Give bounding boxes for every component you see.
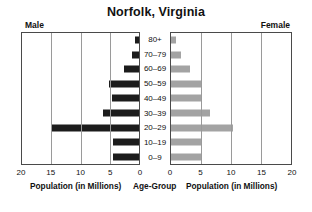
age-group-label: 30–39 — [140, 106, 170, 121]
male-bar-30-39 — [103, 110, 139, 117]
female-bar-80+ — [171, 37, 176, 44]
age-group-axis-title: Age-Group — [133, 181, 176, 191]
female-axis-title: Population (in Millions) — [186, 181, 277, 191]
axis-tick-label: 10 — [227, 168, 236, 177]
female-bar-70-79 — [171, 51, 181, 58]
male-bar-50-59 — [109, 80, 139, 87]
axis-tick-label: 15 — [257, 168, 266, 177]
female-bar-60-69 — [171, 66, 190, 73]
axis-tick-label: 0 — [138, 168, 142, 177]
axis-tick-label: 15 — [46, 168, 55, 177]
axis-tick-label: 20 — [288, 168, 297, 177]
male-plot-panel — [21, 32, 140, 165]
age-group-label: 60–69 — [140, 62, 170, 77]
gridline — [231, 33, 232, 164]
age-group-label: 40–49 — [140, 91, 170, 106]
male-bar-10-19 — [113, 139, 139, 146]
female-bar-0-9 — [171, 153, 202, 160]
axis-tick-label: 10 — [76, 168, 85, 177]
male-bar-0-9 — [113, 153, 139, 160]
gridline — [201, 33, 202, 164]
male-axis-ticks: 20151050 — [21, 168, 140, 180]
age-group-label: 0–9 — [140, 150, 170, 165]
female-axis-ticks: 05101520 — [170, 168, 292, 180]
age-group-labels: 80+70–7960–6950–5940–4930–3920–2910–190–… — [140, 32, 170, 165]
female-side-label: Female — [261, 20, 290, 30]
gridline — [261, 33, 262, 164]
age-group-label: 80+ — [140, 32, 170, 47]
female-bar-20-29 — [171, 124, 233, 131]
male-bar-40-49 — [112, 95, 139, 102]
age-group-label: 70–79 — [140, 47, 170, 62]
male-bar-60-69 — [124, 66, 139, 73]
gridline — [81, 33, 82, 164]
female-bar-10-19 — [171, 139, 202, 146]
age-group-label: 20–29 — [140, 121, 170, 136]
male-axis-title: Population (in Millions) — [30, 181, 121, 191]
population-pyramid-chart: Norfolk, Virginia Male Female 80+70–7960… — [0, 0, 312, 212]
axis-tick-label: 0 — [168, 168, 172, 177]
female-bar-50-59 — [171, 80, 202, 87]
male-bar-80+ — [135, 37, 139, 44]
chart-title: Norfolk, Virginia — [0, 5, 312, 19]
female-bar-30-39 — [171, 110, 210, 117]
male-bar-20-29 — [51, 124, 139, 131]
age-group-label: 10–19 — [140, 135, 170, 150]
gridline — [110, 33, 111, 164]
gridline — [51, 33, 52, 164]
axis-tick-label: 5 — [198, 168, 202, 177]
male-side-label: Male — [25, 20, 44, 30]
age-group-label: 50–59 — [140, 76, 170, 91]
male-bar-70-79 — [132, 51, 139, 58]
female-plot-panel — [170, 32, 292, 165]
axis-tick-label: 5 — [108, 168, 112, 177]
female-bar-40-49 — [171, 95, 201, 102]
axis-tick-label: 20 — [17, 168, 26, 177]
